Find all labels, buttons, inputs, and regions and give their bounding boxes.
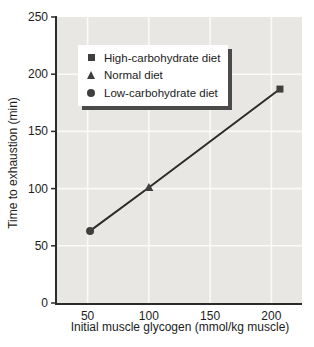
circle-marker-icon (87, 89, 95, 97)
legend-label-high-carbohydrate: High-carbohydrate diet (104, 52, 220, 64)
x-axis-title: Initial muscle glycogen (mmol/kg muscle) (71, 320, 290, 334)
legend-item-low-carbohydrate: Low-carbohydrate diet (88, 87, 222, 99)
legend-item-normal: Normal diet (88, 69, 222, 81)
y-axis-title: Time to exhaustion (min) (6, 97, 20, 229)
legend: High-carbohydrate diet Normal diet Low-c… (78, 45, 228, 106)
legend-item-high-carbohydrate: High-carbohydrate diet (88, 52, 222, 64)
y-tick-label: 150 (28, 124, 48, 138)
legend-label-normal: Normal diet (104, 69, 163, 81)
data-point-square (276, 86, 283, 93)
triangle-marker-icon (87, 71, 95, 79)
y-tick-label: 0 (41, 296, 48, 310)
legend-label-low-carbohydrate: Low-carbohydrate diet (104, 87, 218, 99)
y-tick-label: 250 (28, 10, 48, 24)
exercise-glycogen-chart: 05010015020025050100150200 Time to exhau… (0, 0, 314, 347)
y-tick-label: 200 (28, 67, 48, 81)
y-tick-label: 50 (35, 239, 49, 253)
square-marker-icon (88, 54, 95, 61)
y-tick-label: 100 (28, 182, 48, 196)
data-point-circle (86, 227, 94, 235)
